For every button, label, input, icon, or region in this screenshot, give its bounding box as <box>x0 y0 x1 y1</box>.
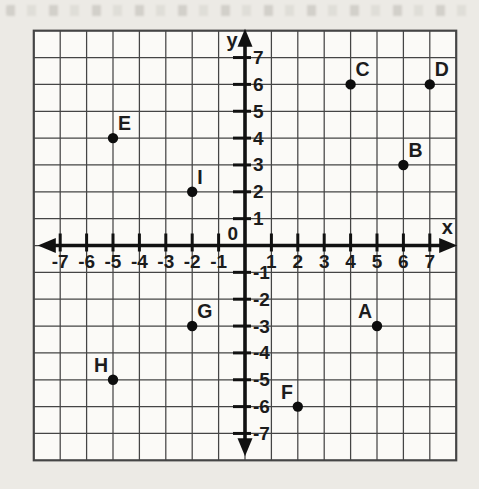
point-dot-C <box>345 79 355 89</box>
point-label-E: E <box>118 112 131 134</box>
y-axis-tick-label: -6 <box>253 396 270 417</box>
y-axis-title: y <box>226 29 238 51</box>
point-label-F: F <box>281 381 293 403</box>
x-axis-tick-label: 2 <box>293 251 304 272</box>
x-axis-tick-label: -3 <box>157 251 174 272</box>
y-axis-tick-label: 2 <box>253 181 264 202</box>
x-axis-tick-label: 7 <box>425 251 436 272</box>
x-axis-tick-label: -2 <box>184 251 201 272</box>
x-axis-tick-label: -4 <box>131 251 148 272</box>
x-axis-tick-label: 4 <box>345 251 356 272</box>
x-axis-tick-label: 3 <box>319 251 330 272</box>
y-axis-tick-label: -3 <box>253 316 270 337</box>
point-dot-B <box>398 160 408 170</box>
point-dot-I <box>187 187 197 197</box>
y-axis-tick-label: -7 <box>253 423 270 444</box>
point-dot-G <box>187 321 197 331</box>
point-label-B: B <box>408 139 422 161</box>
x-axis-tick-label: -5 <box>105 251 122 272</box>
point-dot-F <box>293 401 303 411</box>
y-axis-tick-label: -5 <box>253 369 270 390</box>
point-dot-E <box>108 133 118 143</box>
y-axis-tick-label: 7 <box>253 47 264 68</box>
point-dot-D <box>425 79 435 89</box>
y-axis-tick-label: -1 <box>253 262 270 283</box>
y-axis-tick-label: 3 <box>253 154 264 175</box>
point-label-I: I <box>197 166 202 188</box>
scan-artifact-strip <box>6 5 472 16</box>
y-axis-tick-label: 4 <box>253 128 264 149</box>
x-axis-tick-label: -1 <box>210 251 227 272</box>
scanned-graph-page: -7-6-5-4-3-2-112345677654321-1-2-3-4-5-6… <box>0 0 479 489</box>
y-axis-tick-label: 1 <box>253 208 264 229</box>
x-axis-title: x <box>442 216 453 238</box>
point-dot-A <box>372 321 382 331</box>
point-label-A: A <box>358 300 372 322</box>
x-axis-tick-label: -6 <box>78 251 95 272</box>
x-axis-tick-label: 6 <box>398 251 409 272</box>
x-axis-tick-label: -7 <box>52 251 69 272</box>
point-label-G: G <box>197 300 212 322</box>
point-label-C: C <box>356 58 370 80</box>
y-axis-tick-label: 6 <box>253 74 264 95</box>
coordinate-plane-figure: -7-6-5-4-3-2-112345677654321-1-2-3-4-5-6… <box>0 0 479 489</box>
y-axis-tick-label: -4 <box>253 342 270 363</box>
point-label-D: D <box>435 58 449 80</box>
y-axis-tick-label: 5 <box>253 101 264 122</box>
y-axis-tick-label: -2 <box>253 289 270 310</box>
origin-label: 0 <box>227 223 238 244</box>
point-dot-H <box>108 375 118 385</box>
x-axis-tick-label: 5 <box>372 251 383 272</box>
point-label-H: H <box>94 354 108 376</box>
